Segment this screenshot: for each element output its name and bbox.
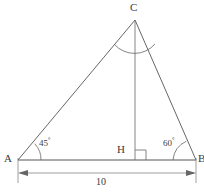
dimension-label-base: 10 [96,177,106,187]
right-angle-marker-h [135,150,146,160]
triangle-side-ac [18,20,135,160]
angle-arc-b [173,141,186,160]
vertex-label-a: A [4,153,12,164]
vertex-label-c: C [130,2,137,13]
geometry-figure: A B C H 45° 60° 10 [0,0,204,193]
angle-label-b: 60° [163,137,174,148]
dimension-arrow-left-icon [18,170,28,176]
degree-symbol-a: ° [48,137,50,143]
dimension-arrow-right-icon [186,170,196,176]
angle-label-a: 45° [39,137,50,148]
vertex-label-h: H [117,144,125,155]
triangle-diagram-svg [0,0,204,193]
degree-symbol-b: ° [172,137,174,143]
angle-value-b: 60 [163,138,172,148]
angle-value-a: 45 [39,138,48,148]
vertex-label-b: B [198,153,204,164]
